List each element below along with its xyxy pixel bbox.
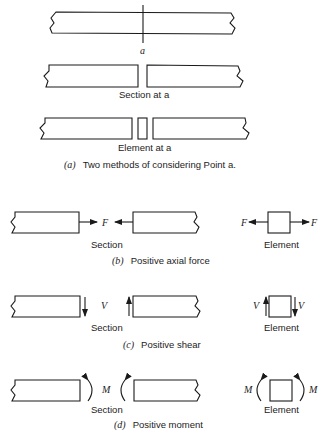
caption-c-letter: (c) <box>123 339 135 351</box>
axial-right-piece <box>133 212 199 233</box>
moment-element-right-label: M <box>308 384 318 395</box>
moment-element-arrow-right <box>300 380 304 401</box>
caption-a-text: Two methods of considering Point a. <box>83 159 236 170</box>
axial-element-box <box>268 212 290 233</box>
caption-c: (c) Positive shear <box>123 334 201 351</box>
element-at-a-label: Element at a <box>118 142 172 153</box>
caption-d-text: Positive moment <box>133 419 204 430</box>
axial-left-piece <box>11 212 79 233</box>
element-right-piece <box>153 118 249 139</box>
caption-d-letter: (d) <box>114 419 126 431</box>
axial-element-label: Element <box>264 239 299 250</box>
panel-c: V Section V V Element (c) Positive shear <box>11 296 306 351</box>
moment-label: M <box>101 384 111 395</box>
panel-a: a Section at a Element at a (a) Two meth… <box>40 5 249 171</box>
panel-b: F Section F F Element (b) Positive axial… <box>11 212 318 267</box>
shear-element-left-label: V <box>253 300 261 311</box>
caption-b: (b) Positive axial force <box>112 250 210 267</box>
section-left-piece <box>44 65 138 87</box>
moment-right-piece <box>134 380 200 401</box>
element-force-right-label: F <box>310 217 318 228</box>
caption-b-text: Positive axial force <box>131 255 210 266</box>
element-left-piece <box>40 118 132 139</box>
moment-left-piece <box>11 380 80 401</box>
shear-right-piece <box>133 296 200 317</box>
section-right-piece <box>147 65 243 87</box>
axial-section-label: Section <box>91 239 123 250</box>
moment-arrow-left-section <box>88 380 92 401</box>
moment-section-label: Section <box>91 404 123 415</box>
caption-d: (d) Positive moment <box>114 414 203 431</box>
cut-label: a <box>140 45 145 56</box>
moment-element-label: Element <box>264 404 299 415</box>
sign-convention-diagram: a Section at a Element at a (a) Two meth… <box>0 0 322 437</box>
element-force-left-label: F <box>240 217 248 228</box>
caption-a-letter: (a) <box>64 159 76 171</box>
moment-element-left-label: M <box>243 384 253 395</box>
moment-element-arrow-left <box>257 380 261 401</box>
axial-force-label: F <box>101 217 109 228</box>
moment-arrow-right-section <box>121 380 125 401</box>
section-at-a-label: Section at a <box>119 89 170 100</box>
caption-c-text: Positive shear <box>141 339 201 350</box>
caption-a: (a) Two methods of considering Point a. <box>64 154 236 171</box>
shear-element-label: Element <box>264 322 299 333</box>
element-piece <box>138 118 147 139</box>
shear-force-label: V <box>101 300 109 311</box>
caption-b-letter: (b) <box>112 255 124 267</box>
shear-left-piece <box>11 296 80 317</box>
shear-section-label: Section <box>91 322 123 333</box>
shear-element-right-label: V <box>298 300 306 311</box>
shear-element-box <box>269 296 291 317</box>
panel-d: M Section M M Element (d) Positive momen… <box>11 380 318 431</box>
moment-element-box <box>270 380 292 401</box>
